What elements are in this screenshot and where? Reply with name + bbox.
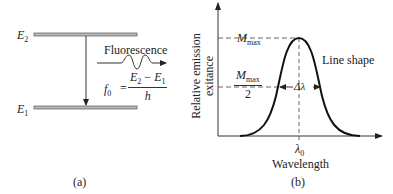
panel-a-caption: (a): [73, 176, 86, 188]
formula-numerator: E2 − E1: [128, 71, 167, 88]
upper-level-label: E2: [17, 29, 28, 44]
lower-level-label: E1: [17, 103, 28, 118]
upper-energy-level: [34, 33, 137, 36]
x-axis-label: Wavelength: [272, 158, 329, 170]
lower-energy-level: [34, 106, 137, 109]
fwhm-label: Δλ: [294, 81, 305, 92]
line-shape-label: Line shape: [322, 54, 374, 66]
frequency-formula-fraction: E2 − E1 h: [128, 71, 167, 102]
panel-b-caption: (b): [291, 176, 305, 188]
photon-wave-icon: [97, 55, 166, 69]
center-wavelength-label: λ0: [295, 143, 304, 158]
y-axis-label: Relative emission exitance: [190, 21, 216, 131]
frequency-symbol: f0: [104, 83, 111, 98]
formula-denominator: h: [128, 88, 167, 102]
equals-sign: =: [120, 82, 127, 94]
fluorescence-label: Fluorescence: [104, 44, 167, 56]
half-max-label: Mmax 2: [234, 69, 262, 100]
peak-label: Mmax: [237, 32, 261, 47]
